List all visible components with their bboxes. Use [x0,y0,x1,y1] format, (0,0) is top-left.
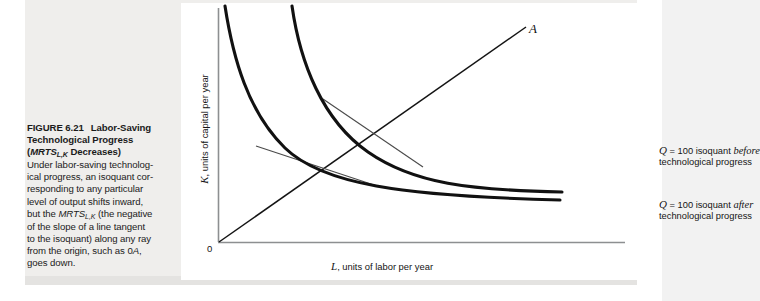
legend-before-label: Q = 100 isoquant before technological pr… [659,145,760,169]
legend-after-emph: after [733,199,753,210]
legend-after-text: = 100 isoquant [667,200,733,210]
tangent-line-after [256,146,377,186]
isoquant-after-curve [225,6,560,200]
legend-after-label: Q = 100 isoquant after technological pro… [659,199,753,223]
isoquant-before-curve [292,6,562,192]
legend-before-line2: technological progress [659,157,752,167]
legend-before-text: = 100 isoquant [667,146,733,156]
legend-after-line2: technological progress [659,211,752,221]
ray-0a-line [219,27,526,242]
legend-before-emph: before [733,145,759,156]
